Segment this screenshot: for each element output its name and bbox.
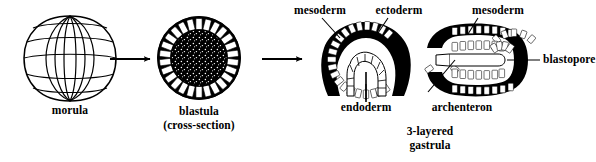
- caption-gastrula: 3-layered gastrula: [407, 124, 454, 152]
- blastula-figure: [157, 16, 241, 100]
- leader-mesoderm-left: [322, 18, 340, 38]
- caption-gastrula-line1: 3-layered: [407, 124, 454, 138]
- caption-blastula-line1: blastula: [163, 104, 235, 118]
- label-endoderm: endoderm: [341, 101, 392, 114]
- caption-gastrula-line2: gastrula: [407, 138, 454, 152]
- label-mesoderm-right: mesoderm: [472, 4, 524, 17]
- label-ectoderm: ectoderm: [376, 4, 423, 17]
- caption-blastula: blastula (cross-section): [163, 104, 235, 132]
- caption-morula: morula: [52, 104, 88, 117]
- label-blastopore: blastopore: [543, 53, 596, 66]
- caption-blastula-line2: (cross-section): [163, 118, 235, 132]
- label-mesoderm-left: mesoderm: [294, 4, 346, 17]
- label-archenteron: archenteron: [432, 101, 493, 114]
- morula-figure: [24, 16, 116, 101]
